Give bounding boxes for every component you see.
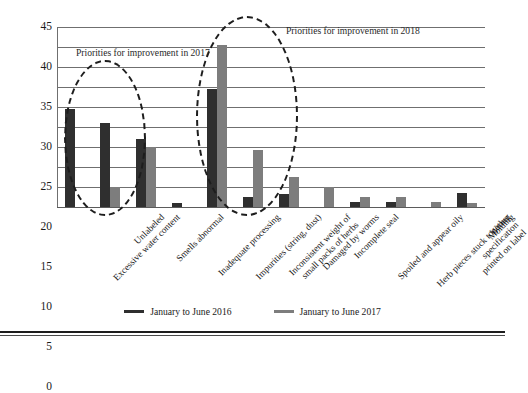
bar-group (414, 27, 450, 207)
bar-pair (449, 27, 485, 207)
bar[interactable] (360, 197, 370, 207)
priorities-2017-ellipse (64, 60, 146, 216)
legend-swatch-2017 (274, 310, 294, 313)
legend-label-2017: January to June 2017 (300, 306, 381, 317)
bar[interactable] (289, 177, 299, 207)
chart-legend: January to June 2016 January to June 201… (0, 306, 505, 317)
bar-group (378, 27, 414, 207)
annotation-priorities-2017: Priorities for improvement in 2017 (76, 48, 210, 59)
bar[interactable] (324, 187, 334, 207)
bar[interactable] (146, 147, 156, 207)
priorities-2018-ellipse (196, 16, 298, 216)
bar-group (342, 27, 378, 207)
bar[interactable] (386, 202, 396, 207)
y-tick-label-30: 30 (41, 141, 53, 153)
bar-pair (378, 27, 414, 207)
bar[interactable] (350, 202, 360, 207)
legend-item-2017: January to June 2017 (274, 306, 381, 317)
y-tick-label-45: 45 (41, 21, 53, 33)
bar[interactable] (172, 203, 182, 207)
legend-swatch-2016 (124, 310, 144, 313)
footer-rule (0, 331, 505, 333)
bar-pair (307, 27, 343, 207)
y-tick-label-0: 0 (46, 381, 52, 393)
y-tick-label-40: 40 (41, 61, 53, 73)
y-tick-label-15: 15 (41, 261, 53, 273)
y-tick-label-35: 35 (41, 101, 53, 113)
bar[interactable] (396, 197, 406, 207)
bar[interactable] (431, 202, 441, 207)
bar[interactable] (467, 203, 477, 207)
y-tick-label-20: 20 (41, 221, 53, 233)
bar[interactable] (457, 193, 467, 207)
legend-item-2016: January to June 2016 (124, 306, 231, 317)
annotation-priorities-2018: Priorities for improvement in 2018 (286, 26, 420, 37)
y-tick-label-25: 25 (41, 181, 53, 193)
x-axis-label: Wrong specification printed on label (460, 212, 528, 280)
bar-group (307, 27, 343, 207)
bar-group (449, 27, 485, 207)
bar[interactable] (279, 194, 289, 207)
footer-rule-secondary (0, 335, 505, 336)
legend-label-2016: January to June 2016 (150, 306, 231, 317)
bar-pair (342, 27, 378, 207)
bar-pair (414, 27, 450, 207)
y-tick-label-5: 5 (46, 341, 52, 353)
